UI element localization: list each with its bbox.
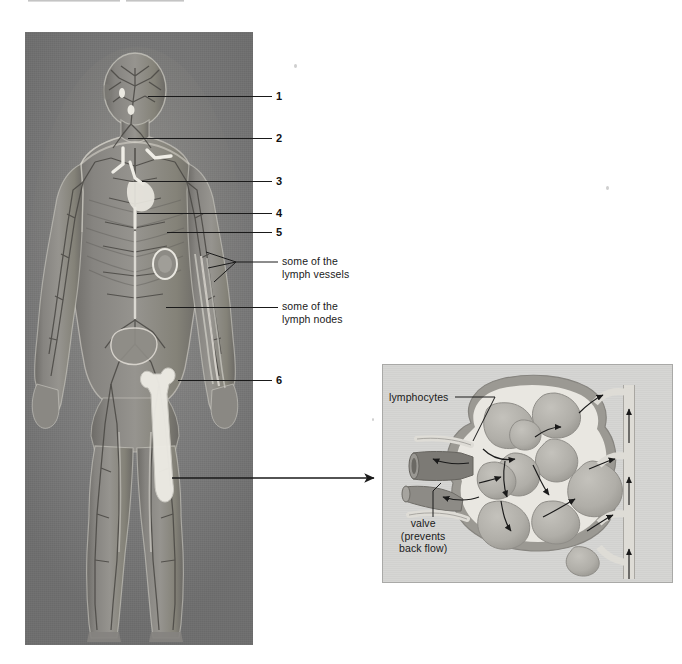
inset-label-valve: valve (prevents back flow) <box>399 517 447 555</box>
scan-artifact-strip <box>28 0 120 2</box>
scan-speck <box>294 64 297 68</box>
leader-fan-lymph-vessels <box>200 244 280 290</box>
body-to-inset-arrow <box>172 470 384 486</box>
lymph-node-inset-panel: lymphocytes valve (prevents back flow) <box>382 364 673 583</box>
callout-label-3: 3 <box>276 176 282 187</box>
callout-label-4: 4 <box>276 208 282 219</box>
leader-line-1 <box>148 96 272 97</box>
leader-line-6 <box>178 380 272 381</box>
inset-label-lymphocytes: lymphocytes <box>389 391 448 404</box>
callout-label-5: 5 <box>276 227 282 238</box>
human-body-illustration-panel <box>25 32 253 645</box>
human-body-lymphatic-svg <box>25 32 253 645</box>
leader-line-5 <box>167 232 272 233</box>
leader-line-3 <box>142 181 272 182</box>
leader-line-2 <box>128 138 272 139</box>
scan-artifact-strip <box>126 0 184 2</box>
figure-root: 1 2 3 4 5 6 some of the lymph vessels so… <box>0 0 682 664</box>
callout-label-1: 1 <box>276 91 282 102</box>
scan-speck <box>606 186 609 190</box>
callout-label-6: 6 <box>276 375 282 386</box>
scan-speck <box>372 418 374 421</box>
callout-label-2: 2 <box>276 133 282 144</box>
callout-label-lymph-vessels: some of the lymph vessels <box>282 255 349 280</box>
leader-line-4 <box>137 213 272 214</box>
callout-label-lymph-nodes: some of the lymph nodes <box>282 300 343 325</box>
leader-line-lymph-nodes <box>166 307 278 308</box>
